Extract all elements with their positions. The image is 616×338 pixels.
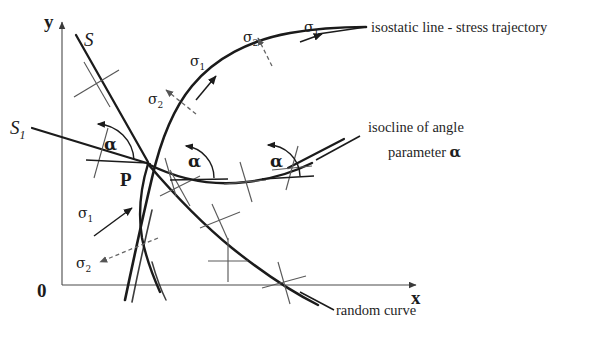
sigma-vector-mid <box>166 76 216 114</box>
diagram-canvas <box>0 0 616 338</box>
origin-label: 0 <box>37 281 47 300</box>
isocline-leader <box>316 136 360 160</box>
sigma-subscript: 1 <box>200 62 206 72</box>
isostatic-line-caption: isostatic line - stress trajectory <box>371 20 547 35</box>
sigma-subscript: 2 <box>158 100 164 110</box>
sigma-glyph: σ <box>148 91 158 107</box>
random-curve-caption: random curve <box>336 303 416 318</box>
stress-cross <box>208 238 248 282</box>
point-p-label: P <box>120 170 132 189</box>
alpha-label-middle: α <box>188 153 201 170</box>
sigma1-label-mid: σ1 <box>190 54 205 72</box>
stress-cross <box>200 204 240 240</box>
random-curve-leader <box>300 292 334 310</box>
sigma2-arrow-upper <box>258 38 272 66</box>
s1-line-label: S1 <box>10 118 26 141</box>
stress-cross-markers <box>160 170 306 304</box>
isocline-caption-line1: isocline of angle <box>368 120 464 135</box>
y-axis-label: y <box>44 12 54 31</box>
sigma2-arrow-lower <box>100 238 158 262</box>
random-curve <box>148 164 318 305</box>
sigma2-label-mid: σ2 <box>148 92 163 110</box>
sigma-glyph: σ <box>76 255 86 271</box>
sigma1-arrow-lower <box>94 208 132 236</box>
sigma-subscript: 1 <box>314 28 320 38</box>
sigma-vector-lower <box>94 208 158 262</box>
sigma1-label-lower: σ1 <box>78 206 93 224</box>
sigma2-label-upper: σ2 <box>243 30 258 48</box>
isocline-caption-prefix: parameter <box>388 144 450 160</box>
s1-line-label-text: S <box>10 117 20 138</box>
sigma-subscript: 2 <box>253 38 259 48</box>
sigma1-label-upper: σ1 <box>304 20 319 38</box>
isocline-caption-alpha: α <box>450 143 462 161</box>
alpha-label-right: α <box>270 153 283 170</box>
sigma-glyph: σ <box>78 205 88 221</box>
stress-cross <box>224 162 266 202</box>
isocline-caption-line2: parameter α <box>388 145 461 160</box>
alpha-label-left: α <box>104 136 117 153</box>
conjugate-isostatic-curve <box>140 164 166 300</box>
sigma-subscript: 1 <box>88 214 94 224</box>
s-line-label: S <box>84 30 94 49</box>
s1-line-label-subscript: 1 <box>20 128 26 142</box>
sigma-glyph: σ <box>304 19 314 35</box>
sigma-subscript: 2 <box>86 264 92 274</box>
stress-cross <box>262 262 306 304</box>
isocline-curve <box>148 139 344 183</box>
stress-trajectory-diagram: y x 0 P S S1 σ1 σ2 σ2 σ1 σ2 σ1 α α α iso… <box>0 0 616 338</box>
sigma-glyph: σ <box>243 29 253 45</box>
sigma-glyph: σ <box>190 53 200 69</box>
sigma2-label-lower: σ2 <box>76 256 91 274</box>
s-line-label-text: S <box>84 29 94 50</box>
